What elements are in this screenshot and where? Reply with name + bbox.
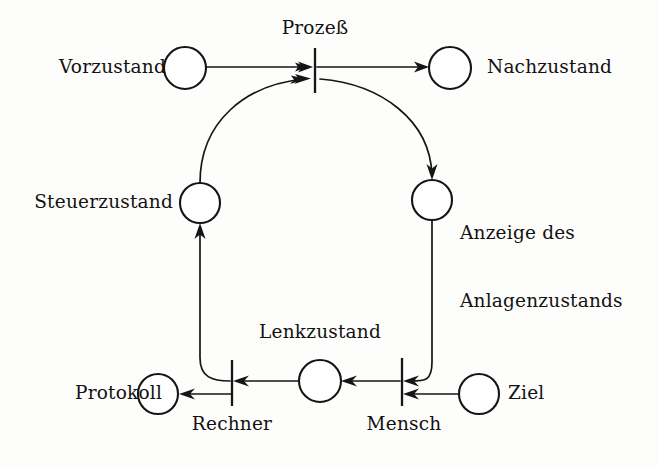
arc-rechner-to-protokoll	[179, 389, 231, 400]
arc-anzeige-to-mensch	[403, 220, 432, 387]
arc-steuerzustand-to-prozess	[200, 74, 311, 183]
place-ziel[interactable]	[459, 374, 499, 414]
arc-prozess-to-anzeige	[320, 79, 438, 180]
label-ziel: Ziel	[508, 382, 598, 405]
arc-prozess-to-nachzustand	[317, 62, 429, 73]
place-lenkzustand[interactable]	[299, 360, 341, 402]
label-mensch: Mensch	[349, 413, 459, 436]
arc-ziel-to-mensch	[403, 389, 459, 400]
label-anzeige-des-anlagenzustands: Anzeige des Anlagenzustands	[460, 177, 650, 358]
label-nachzustand: Nachzustand	[487, 56, 647, 79]
arc-vorzustand-to-prozess	[206, 62, 313, 73]
arc-mensch-to-lenkzustand	[341, 376, 400, 387]
place-steuerzustand[interactable]	[180, 183, 220, 223]
label-steuerzustand: Steuerzustand	[13, 191, 173, 214]
label-protokoll: Protokoll	[22, 382, 162, 405]
label-prozess: Prozeß	[255, 17, 375, 40]
label-anzeige-line-1: Anzeige des	[460, 222, 650, 245]
label-rechner: Rechner	[177, 413, 287, 436]
place-anzeige-des-anlagenzustands[interactable]	[412, 180, 452, 220]
place-vorzustand[interactable]	[164, 47, 206, 89]
arc-rechner-to-steuerzustand	[195, 223, 231, 381]
label-vorzustand: Vorzustand	[26, 56, 166, 79]
place-nachzustand[interactable]	[429, 47, 471, 89]
label-lenkzustand: Lenkzustand	[250, 321, 390, 344]
petri-net-diagram: Vorzustand Nachzustand Prozeß Steuerzust…	[0, 0, 658, 466]
label-anzeige-line-2: Anlagenzustands	[460, 290, 650, 313]
arc-lenkzustand-to-rechner	[233, 376, 299, 387]
